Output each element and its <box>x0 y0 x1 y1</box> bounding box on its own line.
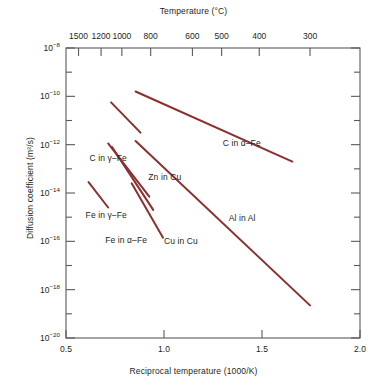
x-tick-label-1.5: 1.5 <box>256 344 268 354</box>
series-label-fe-in-fe: Fe in α–Fe <box>105 235 147 245</box>
plot-frame <box>66 48 360 338</box>
y-tick-label--16: 10−16 <box>24 236 60 246</box>
y-tick-label--8: 10−8 <box>24 43 60 53</box>
diffusion-coefficient-chart: Temperature (°C) Reciprocal temperature … <box>0 0 387 388</box>
y-tick-label--12: 10−12 <box>24 140 60 150</box>
data-line-al-in-al <box>136 141 310 305</box>
data-line-fe-in-fe <box>89 182 109 207</box>
y-tick-label--10: 10−10 <box>24 91 60 101</box>
series-label-c-in-fe: C in α–Fe <box>223 138 261 148</box>
top-tick-label-600: 600 <box>185 31 199 41</box>
x-tick-label-1.0: 1.0 <box>158 344 170 354</box>
data-line-cu-in-cu <box>132 183 163 237</box>
series-label-c-in-fe: C in γ–Fe <box>90 153 127 163</box>
data-line-c-in-fe <box>111 102 140 132</box>
top-tick-label-1200: 1200 <box>92 31 111 41</box>
top-tick-label-1000: 1000 <box>112 31 131 41</box>
x-tick-label-0.5: 0.5 <box>60 344 72 354</box>
top-tick-label-500: 500 <box>215 31 229 41</box>
series-label-cu-in-cu: Cu in Cu <box>164 236 198 246</box>
series-label-al-in-al: Al in Al <box>229 213 256 223</box>
data-series-lines <box>89 92 310 306</box>
axis-frame <box>66 48 360 338</box>
top-tick-label-1500: 1500 <box>69 31 88 41</box>
y-tick-label--20: 10−20 <box>24 333 60 343</box>
top-tick-label-300: 300 <box>303 31 317 41</box>
top-tick-label-400: 400 <box>252 31 266 41</box>
data-line-c-in-fe <box>136 92 293 162</box>
series-label-fe-in-fe: Fe in γ–Fe <box>86 210 127 220</box>
top-tick-label-800: 800 <box>144 31 158 41</box>
series-label-zn-in-cu: Zn in Cu <box>148 172 181 182</box>
tick-marks <box>66 48 360 338</box>
x-tick-label-2.0: 2.0 <box>354 344 366 354</box>
y-tick-label--18: 10−18 <box>24 285 60 295</box>
y-tick-label--14: 10−14 <box>24 188 60 198</box>
